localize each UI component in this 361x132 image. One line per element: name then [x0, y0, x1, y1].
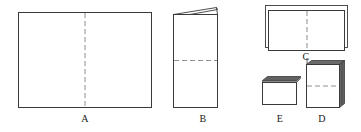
figure-d-group [307, 58, 345, 108]
figure-e-group [263, 77, 301, 105]
figure-e-label: E [268, 114, 292, 124]
figure-e-top-face [263, 77, 301, 81]
figure-d-label: D [310, 114, 334, 124]
figure-a-label: A [70, 114, 100, 124]
figure-e-front-face [263, 83, 297, 105]
figure-b-label: B [188, 114, 218, 124]
figure-d-right-face [340, 61, 345, 108]
figure-a-group [19, 13, 152, 108]
figure-c-label: C [297, 52, 315, 62]
figure-canvas: A B C E D [0, 0, 361, 132]
figure-b-group [174, 8, 218, 108]
figure-illustration [0, 0, 361, 132]
figure-c-group [266, 6, 348, 51]
